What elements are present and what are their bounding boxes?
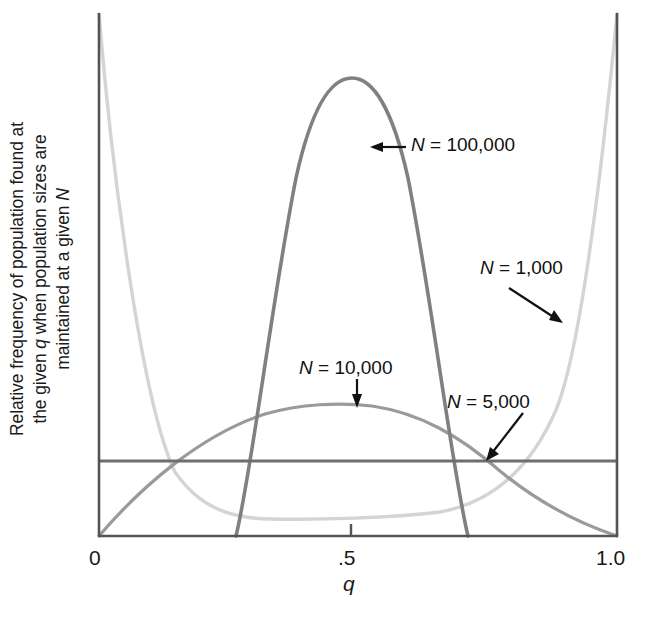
annotation-n-10000-symbol: N <box>299 357 313 378</box>
annotation-n-100000: N = 100,000 <box>411 134 515 156</box>
x-tick-label-mid: .5 <box>338 546 356 570</box>
annotation-n-10000: N = 10,000 <box>299 357 393 379</box>
x-tick-label-max: 1.0 <box>596 546 625 570</box>
annotation-n-5000-value: = 5,000 <box>461 391 530 412</box>
plot-area <box>0 0 653 618</box>
x-axis-label: q <box>343 572 355 596</box>
arrow-n-5000 <box>486 413 523 461</box>
arrow-n-1000 <box>509 288 563 323</box>
annotation-n-1000-symbol: N <box>480 257 494 278</box>
annotation-n-100000-value: = 100,000 <box>425 134 515 155</box>
annotation-n-5000: N = 5,000 <box>447 391 530 413</box>
annotation-n-10000-value: = 10,000 <box>313 357 393 378</box>
annotation-n-100000-symbol: N <box>411 134 425 155</box>
x-tick-label-0: 0 <box>89 546 101 570</box>
curve-n-10000 <box>99 404 617 536</box>
annotation-n-5000-symbol: N <box>447 391 461 412</box>
annotation-n-1000-value: = 1,000 <box>494 257 563 278</box>
annotation-n-1000: N = 1,000 <box>480 257 563 279</box>
figure-container: Relative frequency of population found a… <box>0 0 653 618</box>
